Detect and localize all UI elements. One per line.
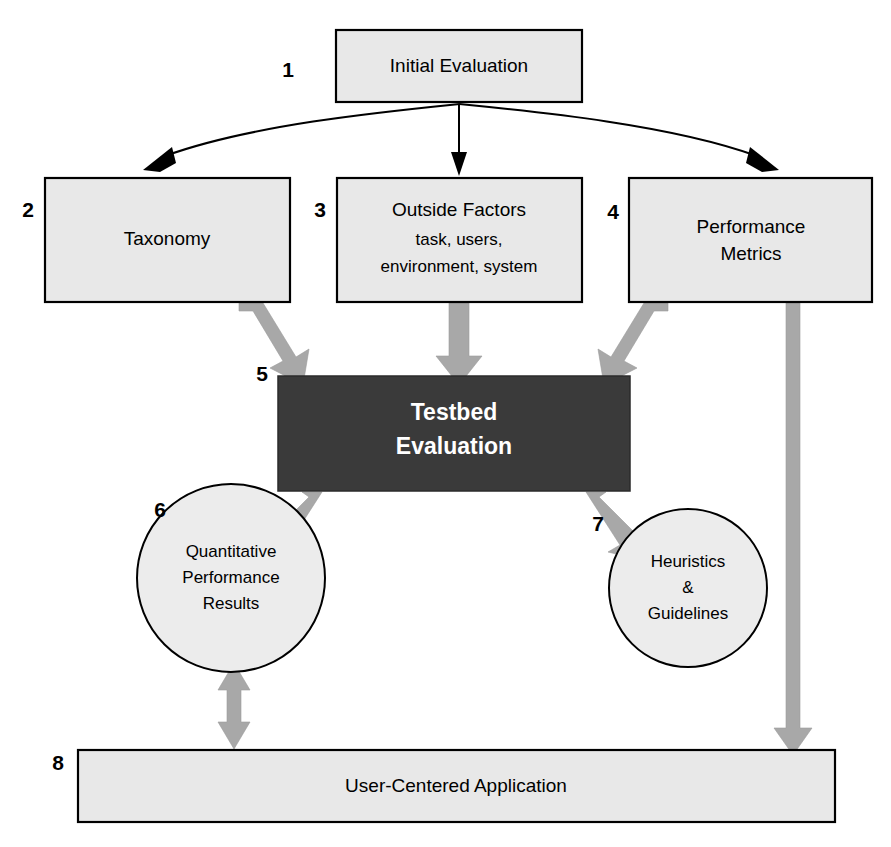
node-outside-factors[interactable]: Outside Factors task, users, environment… [337, 178, 582, 302]
node-quantitative-results-label-line3: Results [203, 594, 260, 613]
node-heuristics-guidelines[interactable]: Heuristics & Guidelines [609, 509, 767, 667]
edge-taxonomy-to-testbed [239, 303, 309, 385]
node-outside-factors-sublabel-line2: environment, system [381, 257, 538, 276]
flow-diagram: Initial Evaluation 1 Taxonomy 2 Outside … [0, 0, 891, 847]
node-quantitative-results-label-line2: Performance [182, 568, 279, 587]
node-heuristics-label-line1: Heuristics [651, 552, 726, 571]
edge-quantitative-results-to-application [218, 663, 250, 749]
edge-performance-metrics-to-application [774, 303, 812, 755]
node-initial-evaluation[interactable]: Initial Evaluation [336, 30, 582, 102]
step-number-6: 6 [154, 498, 166, 521]
node-user-centered-application[interactable]: User-Centered Application [78, 750, 835, 822]
step-number-7: 7 [592, 512, 604, 535]
diagram-canvas: Initial Evaluation 1 Taxonomy 2 Outside … [0, 0, 891, 847]
node-heuristics-label-line2: & [682, 578, 694, 597]
node-performance-metrics[interactable]: Performance Metrics [629, 178, 872, 302]
node-quantitative-results-label-line1: Quantitative [186, 542, 277, 561]
edge-performance-metrics-to-testbed [598, 303, 668, 385]
node-taxonomy[interactable]: Taxonomy [45, 178, 290, 302]
edge-initial-to-outside-factors [451, 104, 467, 176]
node-performance-metrics-label-line1: Performance [697, 216, 806, 237]
step-number-3: 3 [314, 198, 326, 221]
step-number-2: 2 [22, 198, 34, 221]
node-testbed-evaluation-label-line1: Testbed [411, 399, 497, 425]
node-testbed-evaluation-label-line2: Evaluation [396, 433, 512, 459]
node-outside-factors-sublabel-line1: task, users, [416, 230, 503, 249]
step-number-8: 8 [52, 751, 64, 774]
step-number-1: 1 [282, 58, 294, 81]
edge-initial-to-performance-metrics [459, 104, 779, 172]
node-user-centered-application-label: User-Centered Application [345, 775, 567, 796]
step-number-4: 4 [607, 200, 619, 223]
node-performance-metrics-label-line2: Metrics [720, 243, 781, 264]
node-testbed-evaluation[interactable]: Testbed Evaluation [278, 376, 630, 491]
edge-outside-factors-to-testbed [436, 303, 482, 385]
node-initial-evaluation-label: Initial Evaluation [390, 55, 528, 76]
node-taxonomy-label: Taxonomy [124, 228, 211, 249]
edge-initial-to-taxonomy [143, 104, 459, 172]
node-heuristics-label-line3: Guidelines [648, 604, 728, 623]
node-outside-factors-label: Outside Factors [392, 199, 526, 220]
step-number-5: 5 [256, 362, 268, 385]
